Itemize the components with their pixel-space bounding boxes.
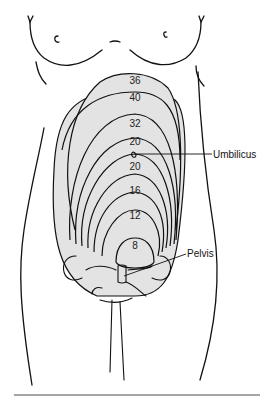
week-label-40: 40 (129, 92, 141, 103)
uterine-contours (53, 74, 185, 296)
week-label-32: 32 (129, 118, 141, 129)
pelvis-label: Pelvis (187, 248, 214, 259)
week-label-16: 16 (129, 185, 141, 196)
week-label-20-lower: 20 (129, 161, 141, 172)
week-label-20-upper: 20 (129, 136, 141, 147)
week-label-36: 36 (129, 75, 141, 86)
umbilicus-label: Umbilicus (213, 149, 256, 160)
fundal-height-diagram: 36 40 32 20 20 16 12 8 Umbilicus Pelvis (0, 0, 270, 400)
week-label-8: 8 (132, 240, 138, 251)
week-label-12: 12 (129, 210, 141, 221)
contour-36 (68, 74, 181, 230)
